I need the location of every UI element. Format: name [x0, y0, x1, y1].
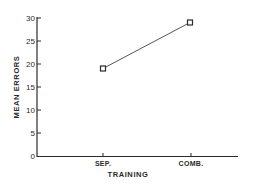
- data-line: [103, 23, 190, 69]
- y-tick-label: 20: [26, 60, 35, 69]
- y-tick-label: 0: [31, 152, 36, 161]
- x-category-label-comb: COMB.: [179, 160, 204, 167]
- y-tick-label: 25: [26, 37, 35, 46]
- x-category-label-sep: SEP.: [95, 160, 111, 167]
- x-axis-title: TRAINING: [107, 170, 148, 179]
- y-axis-title: MEAN ERRORS: [12, 56, 21, 119]
- chart-canvas: 30 25 20 15 10 5 0 SEP. COMB. TRAINING M…: [0, 0, 254, 192]
- y-tick-label: 10: [26, 106, 35, 115]
- y-tick-label: 5: [31, 129, 36, 138]
- y-tick-labels: 30 25 20 15 10 5 0: [26, 14, 35, 161]
- line-chart: 30 25 20 15 10 5 0 SEP. COMB. TRAINING M…: [0, 0, 254, 192]
- x-ticks: [103, 153, 191, 156]
- y-tick-label: 15: [26, 83, 35, 92]
- data-point-comb: [188, 20, 193, 25]
- y-tick-label: 30: [26, 14, 35, 23]
- data-point-sep: [101, 66, 106, 71]
